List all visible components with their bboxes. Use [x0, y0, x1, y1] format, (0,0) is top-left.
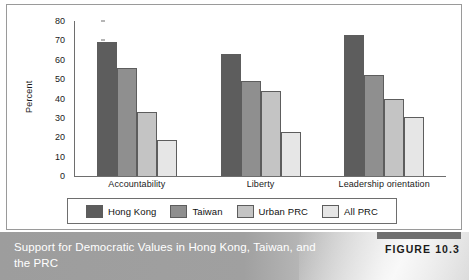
- bar: [281, 132, 301, 176]
- bar: [261, 91, 281, 176]
- y-tick-label: 20: [55, 133, 65, 142]
- legend-item[interactable]: All PRC: [322, 205, 378, 218]
- chart-frame: Percent 01020304050607080 Accountability…: [6, 4, 462, 230]
- x-axis-line: [74, 176, 446, 177]
- y-tick-label: 40: [55, 94, 65, 103]
- legend-swatch-icon: [237, 205, 254, 218]
- chart-legend: Hong KongTaiwanUrban PRCAll PRC: [67, 198, 397, 224]
- bar: [241, 81, 261, 176]
- y-axis-tick-labels: 01020304050607080: [37, 21, 71, 177]
- x-tick-label: Leadership orientation: [339, 179, 430, 189]
- bar: [404, 117, 424, 176]
- legend-swatch-icon: [86, 205, 103, 218]
- figure-container: Percent 01020304050607080 Accountability…: [0, 0, 469, 280]
- figure-number-label: FIGURE 10.3: [385, 243, 460, 255]
- bar: [364, 75, 384, 176]
- y-tick-label: 0: [60, 172, 65, 181]
- plot-wrapper: Percent 01020304050607080 Accountability…: [7, 5, 463, 195]
- y-tick-label: 80: [55, 17, 65, 26]
- bar: [117, 68, 137, 177]
- x-tick-label: Liberty: [247, 179, 275, 189]
- figure-number-tab-decoration: [377, 232, 461, 239]
- x-tick-label: Accountability: [108, 179, 165, 189]
- bar-group: [97, 21, 177, 176]
- y-tick-label: 10: [55, 152, 65, 161]
- bar-group: [344, 21, 424, 176]
- y-tick-label: 50: [55, 75, 65, 84]
- bar-group: [221, 21, 301, 176]
- legend-item[interactable]: Hong Kong: [86, 205, 156, 218]
- figure-caption: Support for Democratic Values in Hong Ko…: [14, 239, 334, 271]
- y-axis-title: Percent: [24, 57, 38, 137]
- bar: [137, 112, 157, 176]
- legend-swatch-icon: [170, 205, 187, 218]
- legend-swatch-icon: [322, 205, 339, 218]
- x-axis-tick-labels: AccountabilityLibertyLeadership orientat…: [75, 179, 446, 193]
- y-tick-label: 70: [55, 36, 65, 45]
- bar: [157, 140, 177, 176]
- legend-label: Hong Kong: [108, 206, 156, 217]
- bar: [344, 35, 364, 176]
- legend-item[interactable]: Taiwan: [170, 205, 222, 218]
- bar: [384, 99, 404, 177]
- y-tick-label: 60: [55, 55, 65, 64]
- legend-label: Taiwan: [192, 206, 222, 217]
- plot-area: [75, 21, 446, 176]
- bar: [97, 42, 117, 176]
- legend-label: Urban PRC: [259, 206, 308, 217]
- y-tick-label: 30: [55, 113, 65, 122]
- legend-item[interactable]: Urban PRC: [237, 205, 308, 218]
- legend-label: All PRC: [344, 206, 378, 217]
- caption-band: Support for Democratic Values in Hong Ko…: [0, 232, 469, 280]
- bar: [221, 54, 241, 176]
